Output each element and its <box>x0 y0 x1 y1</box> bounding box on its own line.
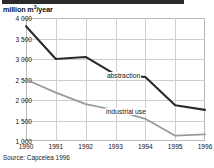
plot-wrapper: 1 0001 5002 0002 5003 0003 5004 000 1990… <box>0 15 214 145</box>
x-axis-tick-label: 1995 <box>168 143 183 150</box>
y-axis-tick-mark <box>23 141 26 142</box>
title-bar <box>2 0 184 4</box>
y-axis-unit-prefix: million m <box>3 5 34 14</box>
y-axis-unit-label: million m3/year <box>3 5 53 14</box>
source-note: Source: Capcelea 1996 <box>3 154 70 161</box>
x-axis-tick-label: 1991 <box>48 143 63 150</box>
chart-figure: million m3/year 1 0001 5002 0002 5003 00… <box>0 0 214 168</box>
x-axis-tick-label: 1996 <box>198 143 213 150</box>
series-label-industrial-use: industrial use <box>105 108 147 115</box>
x-axis-tick-label: 1994 <box>138 143 153 150</box>
series-label-abstraction: abstraction <box>106 72 141 79</box>
series-line-abstraction <box>26 26 205 110</box>
x-axis-tick-label: 1990 <box>19 143 34 150</box>
x-axis-tick-label: 1992 <box>78 143 93 150</box>
y-axis-unit-suffix: /year <box>36 5 52 14</box>
x-axis-tick-label: 1993 <box>108 143 123 150</box>
series-layer <box>26 18 205 141</box>
